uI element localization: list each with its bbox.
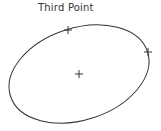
ellipse-shape	[0, 8, 161, 131]
ellipse-diagram	[0, 0, 161, 131]
center-point-marker	[75, 70, 83, 78]
third-point-marker	[64, 26, 72, 34]
second-point-marker	[144, 48, 152, 56]
